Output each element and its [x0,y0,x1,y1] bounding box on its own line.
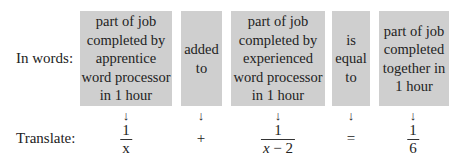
plus-operator: + [197,130,205,147]
box-line: apprentice [82,49,171,68]
box-line: to [335,68,366,87]
box-line: part of job [82,12,171,31]
box-line: experienced [234,49,323,68]
box-line: equal [335,49,366,68]
box-line: word processor [82,68,171,87]
box-line: word processor [234,68,323,87]
denominator-rest: − 2 [270,140,293,156]
down-arrow-icon: ↓ [348,108,355,124]
box-line: part of job [383,22,445,41]
denominator: x [120,139,132,157]
box-line: completed by [82,31,171,50]
translate-label: Translate: [16,130,75,147]
phrase-box-added-to: addedto [181,11,222,106]
fraction-1-over-x-minus-2: 1x − 2 [261,122,295,157]
box-line: completed [383,40,445,59]
in-words-label: In words: [16,50,73,67]
box-line: to [184,59,219,78]
fraction-1-over-x: 1x [120,122,132,157]
phrase-box-together: part of jobcompletedtogether in1 hour [379,11,449,106]
down-arrow-icon: ↓ [198,108,205,124]
denominator-variable: x [263,140,270,156]
box-line: completed by [234,31,323,50]
phrase-box-experienced: part of jobcompleted byexperiencedword p… [231,11,325,106]
phrase-box-apprentice: part of jobcompleted byapprenticeword pr… [80,11,172,106]
box-line: is [335,31,366,50]
box-line: in 1 hour [82,86,171,105]
phrase-box-equal-to: isequalto [332,11,370,106]
numerator: 1 [272,122,284,139]
numerator: 1 [120,122,132,139]
box-line: in 1 hour [234,86,323,105]
denominator: 6 [407,139,419,157]
box-line: 1 hour [383,77,445,96]
fraction-1-over-6: 16 [407,122,419,157]
box-line: part of job [234,12,323,31]
equals-operator: = [347,130,355,147]
box-line: together in [383,59,445,78]
numerator: 1 [407,122,419,139]
box-line: added [184,40,219,59]
